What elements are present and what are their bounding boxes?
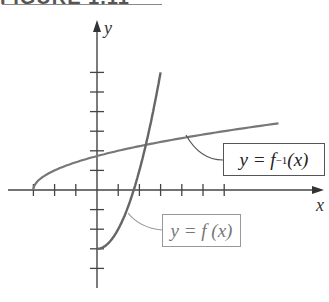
x-axis-label: x (316, 195, 324, 216)
y-axis-arrow-icon (93, 20, 101, 32)
inverse-label-suffix: (x) (287, 149, 308, 171)
x-axis-arrow-icon (312, 186, 324, 194)
function-label-leader (128, 213, 162, 230)
y-axis-label: y (104, 18, 112, 39)
inverse-label-superscript: −1 (276, 154, 288, 166)
function-label: y = f (x) (162, 214, 241, 247)
inverse-function-label: y = f−1 (x) (223, 143, 325, 176)
inverse-label-leader (186, 135, 223, 160)
function-curve (97, 72, 161, 248)
inverse-label-prefix: y = f (240, 149, 276, 171)
